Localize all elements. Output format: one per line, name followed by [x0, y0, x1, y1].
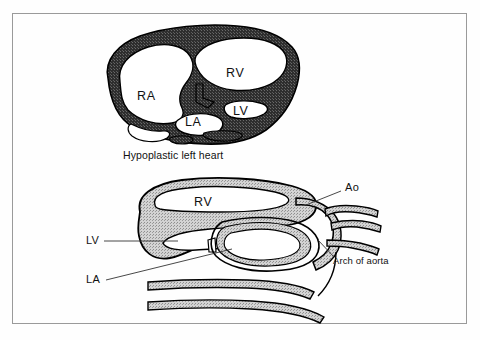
- heart-diagram-graphic: [0, 0, 480, 340]
- lower-descending-vessel-upper: [148, 280, 314, 299]
- lower-label-arch-of-aorta: Arch of aorta: [333, 256, 389, 266]
- upper-label-lv: LV: [233, 105, 249, 118]
- upper-vessel-stub-left: [170, 136, 193, 144]
- upper-four-chamber-figure: [107, 25, 299, 144]
- lower-label-rv: RV: [194, 196, 212, 209]
- upper-right-atrium-lumen: [120, 45, 193, 124]
- lower-right-ventricle-lumen: [155, 187, 289, 212]
- figure-page: RA RV LA LV Hypoplastic left heart RV LV…: [0, 0, 480, 340]
- lower-left-atrium-loop-lumen: [224, 229, 300, 260]
- lower-aortic-arch-figure: [104, 178, 381, 323]
- lower-label-la: LA: [86, 274, 100, 285]
- upper-label-la: LA: [185, 116, 202, 129]
- upper-vessel-stub-right: [203, 131, 242, 141]
- lower-label-lv: LV: [86, 235, 99, 246]
- upper-label-ra: RA: [137, 90, 156, 103]
- figure-caption: Hypoplastic left heart: [123, 150, 223, 161]
- lower-label-ao: Ao: [345, 182, 359, 193]
- lower-descending-vessel-lower: [148, 300, 324, 323]
- upper-label-rv: RV: [226, 67, 244, 80]
